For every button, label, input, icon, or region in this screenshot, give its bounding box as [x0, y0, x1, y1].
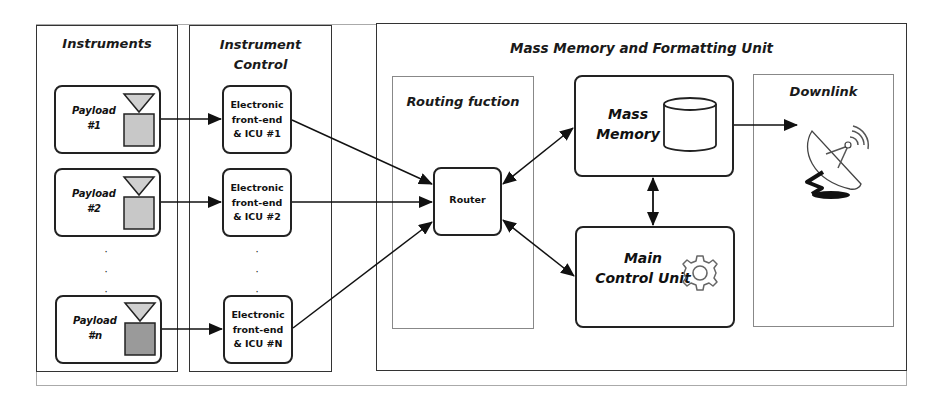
satellite-dish-icon — [807, 126, 868, 199]
connectors-layer — [0, 0, 941, 399]
database-icon — [664, 98, 716, 151]
payload-2-icon — [124, 177, 154, 229]
payload-1-icon — [124, 94, 154, 146]
gear-icon — [683, 256, 717, 290]
payload-n-icon — [125, 303, 155, 355]
